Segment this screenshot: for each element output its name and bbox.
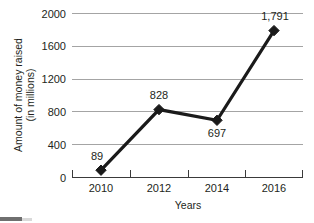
data-point-markers — [96, 25, 279, 175]
x-axis-title: Years — [175, 199, 201, 211]
x-tick-label-2010: 2010 — [89, 182, 113, 194]
data-point-label-2014: 697 — [208, 127, 226, 139]
y-axis-tick-labels: 2000 1600 1200 800 400 0 — [42, 8, 66, 184]
data-point-labels: 89 828 697 1,791 — [91, 10, 289, 162]
x-axis-tick-labels: 2010 2012 2014 2016 — [89, 182, 286, 194]
y-tick-label-2000: 2000 — [42, 8, 66, 20]
page-edge-artifact-light — [22, 218, 32, 221]
y-tick-label-0: 0 — [60, 172, 66, 184]
x-tick-label-2012: 2012 — [147, 182, 171, 194]
x-tick-label-2016: 2016 — [262, 182, 286, 194]
axes — [72, 170, 303, 178]
line-chart: 2000 1600 1200 800 400 0 2010 2012 2014 … — [0, 0, 314, 223]
y-tick-label-1200: 1200 — [42, 73, 66, 85]
y-axis-title-line2: (in millions) — [24, 68, 36, 121]
y-axis-title-line1: Amount of money raised — [12, 38, 24, 152]
y-tick-label-400: 400 — [48, 139, 66, 151]
y-tick-label-1600: 1600 — [42, 40, 66, 52]
y-tick-label-800: 800 — [48, 106, 66, 118]
page-edge-artifact — [0, 217, 22, 221]
data-point-label-2010: 89 — [91, 150, 103, 162]
data-point-label-2016: 1,791 — [261, 10, 289, 22]
gridlines — [72, 14, 303, 145]
data-series-line — [101, 31, 274, 171]
chart-canvas: 2000 1600 1200 800 400 0 2010 2012 2014 … — [0, 0, 314, 223]
x-tick-label-2014: 2014 — [205, 182, 229, 194]
data-point-label-2012: 828 — [150, 89, 168, 101]
